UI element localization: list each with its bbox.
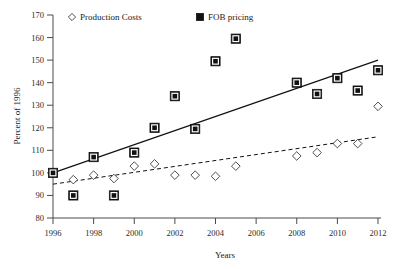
y-tick-label: 110	[32, 145, 44, 155]
y-tick-label: 90	[36, 190, 45, 200]
data-point-production-costs	[292, 152, 301, 161]
data-point-production-costs	[171, 171, 180, 180]
data-point-production-costs	[69, 175, 78, 184]
y-axis-title: Percent of 1996	[12, 87, 22, 144]
y-tick-label: 140	[31, 78, 44, 88]
y-axis-ticks: 8090100110120130140150160170	[31, 10, 53, 223]
x-axis-ticks: 199619982000200220042006200820102012	[45, 218, 387, 238]
x-tick-label: 2010	[329, 228, 346, 238]
y-tick-label: 130	[31, 100, 44, 110]
legend-label-fob-pricing: FOB pricing	[208, 12, 254, 22]
y-tick-label: 80	[36, 213, 45, 223]
x-axis-title: Years	[215, 250, 236, 260]
data-point-production-costs	[333, 139, 342, 148]
legend-label-production-costs: Production Costs	[80, 12, 142, 22]
x-tick-label: 2006	[248, 228, 265, 238]
y-tick-label: 100	[31, 168, 44, 178]
y-tick-label: 120	[31, 123, 44, 133]
data-point-production-costs	[211, 172, 220, 181]
y-tick-label: 160	[31, 33, 44, 43]
scatter-plot: 8090100110120130140150160170 19961998200…	[0, 0, 397, 269]
data-point-production-costs	[313, 148, 322, 157]
x-tick-label: 2012	[370, 228, 387, 238]
trendlines	[53, 60, 378, 184]
data-point-production-costs	[150, 160, 159, 169]
x-tick-label: 1998	[85, 228, 102, 238]
y-tick-label: 150	[31, 55, 44, 65]
data-point-production-costs	[191, 171, 200, 180]
chart-legend: Production CostsFOB pricing	[68, 12, 253, 22]
x-tick-label: 1996	[45, 228, 62, 238]
x-tick-label: 2000	[126, 228, 143, 238]
y-tick-label: 170	[31, 10, 44, 20]
data-point-production-costs	[232, 162, 241, 171]
trendline-fob-pricing	[53, 60, 378, 173]
data-point-production-costs	[374, 102, 383, 111]
x-tick-label: 2002	[166, 228, 183, 238]
x-tick-label: 2004	[207, 228, 225, 238]
legend-marker-fob-pricing	[197, 14, 204, 21]
x-tick-label: 2008	[288, 228, 305, 238]
legend-marker-production-costs	[68, 13, 75, 20]
chart-figure: 8090100110120130140150160170 19961998200…	[0, 0, 397, 269]
data-point-production-costs	[130, 162, 139, 171]
